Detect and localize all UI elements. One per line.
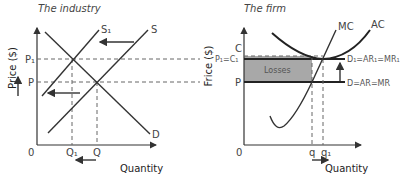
c-label: C	[235, 43, 242, 54]
q-label: Q	[93, 147, 101, 158]
firm-origin-label: 0	[236, 147, 242, 158]
ac-label: AC	[371, 19, 385, 30]
firm-title: The firm	[244, 3, 286, 14]
industry-x-axis-label: Quantity	[120, 163, 163, 174]
d1-label: D₁=AR₁=MR₁	[347, 55, 400, 64]
p-label: P	[28, 77, 34, 88]
d-label-firm: D=AR=MR	[347, 79, 391, 88]
firm-chart: The firm Frice ($) Losses MC AC C P₁=C₁ …	[203, 3, 400, 174]
industry-y-axis-label: Price ($)	[7, 47, 18, 89]
q1-label: Q₁	[66, 147, 78, 158]
supply-curve-s1	[42, 30, 99, 96]
q1-label-firm: q₁	[321, 147, 331, 158]
p-label-firm: P	[235, 77, 241, 88]
firm-x-axis-label: Quantity	[325, 163, 368, 174]
p1-label: P₁	[25, 54, 35, 65]
q-label-firm: q	[309, 147, 315, 158]
firm-y-axis-label: Frice ($)	[203, 45, 214, 86]
industry-title: The industry	[38, 3, 102, 14]
industry-chart: The industry Price ($) S₁ S D P₁ P 0 Q₁ …	[7, 3, 200, 174]
losses-label: Losses	[264, 66, 291, 75]
mc-label: MC	[338, 21, 354, 32]
p1-c1-label: P₁=C₁	[215, 55, 239, 64]
s-label: S	[151, 24, 157, 35]
s1-label: S₁	[101, 24, 111, 35]
d-label: D	[152, 129, 160, 140]
industry-origin-label: 0	[28, 147, 34, 158]
